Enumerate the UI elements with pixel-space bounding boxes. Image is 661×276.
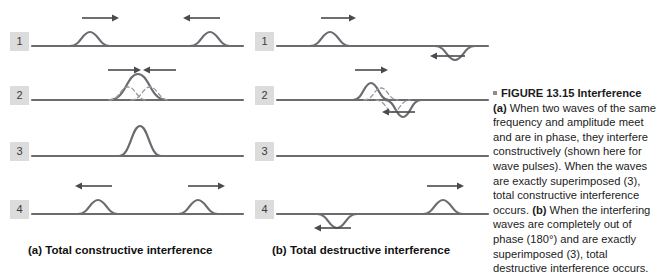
row-number-badge: 1 [255, 32, 274, 51]
wave-row: 1 [0, 12, 245, 68]
wave-pulse [178, 200, 218, 214]
wave-row: 2 [245, 66, 495, 122]
wave-pulse [78, 200, 118, 214]
wave-pulse [435, 46, 475, 60]
caption-part-b-label: (b) [532, 204, 546, 216]
wave-diagram [275, 12, 490, 68]
wave-diagram [275, 66, 490, 122]
panel-b-caption: (b) Total destructive interference [272, 244, 450, 256]
arrow-left-icon [75, 183, 112, 190]
arrow-right-icon [427, 183, 464, 190]
wave-pulse [310, 32, 350, 46]
wave-row: 4 [245, 180, 495, 236]
figure-number: FIGURE 13.15 [501, 87, 574, 99]
wave-row: 1 [245, 12, 495, 68]
arrow-right-icon [108, 67, 141, 74]
caption-part-a-label: (a) [493, 102, 507, 114]
row-number-badge: 2 [10, 86, 29, 105]
wave-diagram [30, 66, 245, 122]
row-number-badge: 4 [10, 200, 29, 219]
wave-diagram [275, 122, 490, 178]
row-number-badge: 2 [255, 86, 274, 105]
wave-pulse [190, 32, 230, 46]
wave-pulse [119, 126, 161, 156]
row-number-badge: 4 [255, 200, 274, 219]
arrow-right-icon [82, 15, 119, 22]
arrow-right-icon [355, 67, 388, 74]
caption-part-a-text: When two waves of the same frequency and… [493, 102, 656, 216]
arrow-left-icon [183, 15, 220, 22]
wave-diagram [30, 12, 245, 68]
panel-a-caption: (a) Total constructive interference [28, 244, 212, 256]
wave-row: 3 [0, 122, 245, 178]
arrow-left-icon [143, 67, 176, 74]
row-number-badge: 3 [255, 142, 274, 161]
figure-caption-body: (a) When two waves of the same frequency… [493, 101, 661, 276]
wave-pulse [317, 214, 357, 228]
figure-title: Interference [577, 87, 641, 99]
wave-diagram [275, 180, 490, 236]
wave-pulse [423, 200, 463, 214]
arrow-right-icon [188, 183, 225, 190]
arrow-right-icon [321, 15, 356, 22]
wave-row: 2 [0, 66, 245, 122]
panel-destructive-interference: 1234 [245, 0, 495, 276]
row-number-badge: 3 [10, 142, 29, 161]
wave-row: 3 [245, 122, 495, 178]
figure-caption: FIGURE 13.15 Interference (a) When two w… [493, 86, 661, 276]
wave-row: 4 [0, 180, 245, 236]
wave-diagram [30, 122, 245, 178]
figure-caption-heading: FIGURE 13.15 Interference [493, 86, 661, 101]
square-bullet-icon [493, 91, 497, 95]
row-number-badge: 1 [10, 32, 29, 51]
panel-constructive-interference: 1234 [0, 0, 245, 276]
wave-diagram [30, 180, 245, 236]
wave-pulse [70, 32, 110, 46]
